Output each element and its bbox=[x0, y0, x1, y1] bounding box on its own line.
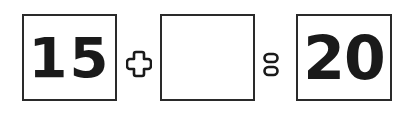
result-value: 20 bbox=[303, 28, 385, 88]
result-box: 20 bbox=[296, 14, 392, 101]
plus-icon bbox=[126, 50, 152, 78]
answer-input-box[interactable] bbox=[160, 14, 255, 101]
left-operand-value: 15 bbox=[29, 30, 111, 86]
left-operand-box: 15 bbox=[22, 14, 117, 101]
equals-icon bbox=[263, 52, 279, 78]
